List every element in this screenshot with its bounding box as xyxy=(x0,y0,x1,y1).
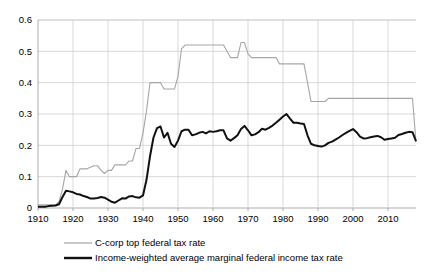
chart-container: 00.10.20.30.40.50.6 19101920193019401950… xyxy=(0,0,428,277)
y-tick-label: 0.5 xyxy=(19,46,32,57)
series-line-c-corp-top-rate xyxy=(38,43,416,205)
data-series-group xyxy=(38,43,416,207)
gridlines xyxy=(38,20,416,208)
x-tick-label: 1980 xyxy=(272,213,293,224)
x-tick-label: 1920 xyxy=(62,213,83,224)
y-tick-label: 0.1 xyxy=(19,171,32,182)
x-tick-label: 2010 xyxy=(377,213,398,224)
x-tick-label: 1940 xyxy=(132,213,153,224)
x-tick-label: 1930 xyxy=(97,213,118,224)
series-line-income-weighted-avg-rate xyxy=(38,114,416,207)
tax-rate-line-chart: 00.10.20.30.40.50.6 19101920193019401950… xyxy=(0,0,428,277)
x-tick-label: 2000 xyxy=(342,213,363,224)
legend-label-income-weighted: Income-weighted average marginal federal… xyxy=(95,252,343,263)
x-tick-label: 1970 xyxy=(237,213,258,224)
y-tick-label: 0.6 xyxy=(19,14,32,25)
y-tick-label: 0 xyxy=(27,202,32,213)
x-tick-label: 1990 xyxy=(307,213,328,224)
x-tick-label: 1960 xyxy=(202,213,223,224)
y-tick-label: 0.4 xyxy=(19,77,32,88)
x-axis-tick-labels: 1910192019301940195019601970198019902000… xyxy=(27,208,398,224)
legend-label-c-corp: C-corp top federal tax rate xyxy=(95,237,205,248)
chart-legend: C-corp top federal tax rateIncome-weight… xyxy=(64,237,343,263)
y-tick-label: 0.2 xyxy=(19,140,32,151)
y-axis-tick-labels: 00.10.20.30.40.50.6 xyxy=(19,14,32,213)
y-tick-label: 0.3 xyxy=(19,108,32,119)
x-tick-label: 1950 xyxy=(167,213,188,224)
x-tick-label: 1910 xyxy=(27,213,48,224)
